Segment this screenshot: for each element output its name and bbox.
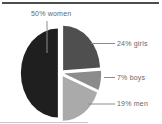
slice-label-girls: 24% girls xyxy=(117,40,148,48)
pie-slices xyxy=(21,26,101,121)
slice-label-women: 50% women xyxy=(31,10,71,18)
pie-slice-girls xyxy=(63,26,100,71)
slice-label-men: 19% men xyxy=(117,100,148,108)
chart-panel: 50% women 24% girls 7% boys 19% men xyxy=(0,0,162,124)
pie-slice-women xyxy=(21,29,58,118)
slice-label-boys: 7% boys xyxy=(117,74,145,82)
